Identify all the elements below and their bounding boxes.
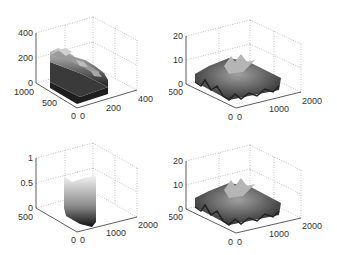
- z-tick-labels: 1 0.5 0: [20, 153, 33, 213]
- svg-text:0: 0: [80, 235, 85, 245]
- svg-text:2000: 2000: [302, 221, 322, 231]
- svg-text:20: 20: [173, 31, 183, 41]
- svg-text:0.5: 0.5: [20, 178, 33, 188]
- svg-text:400: 400: [138, 94, 153, 104]
- y-tick-labels: 500 0: [18, 212, 76, 245]
- z-tick-labels: 20 10 0: [173, 156, 183, 214]
- surface: [195, 178, 281, 225]
- svg-text:10: 10: [173, 180, 183, 190]
- z-tick-labels: 20 10 0: [173, 31, 183, 89]
- svg-text:0: 0: [228, 112, 233, 122]
- svg-text:0: 0: [71, 111, 76, 121]
- svg-text:1000: 1000: [14, 87, 34, 97]
- plot-top-right: 20 10 0 500 0 0 1000 2000: [169, 0, 337, 127]
- svg-text:500: 500: [42, 98, 57, 108]
- svg-text:0: 0: [71, 235, 76, 245]
- svg-text:200: 200: [106, 103, 121, 113]
- x-tick-labels: 0 1000 2000: [237, 96, 322, 122]
- svg-text:200: 200: [18, 53, 33, 63]
- svg-text:0: 0: [80, 111, 85, 121]
- svg-text:1000: 1000: [269, 229, 289, 239]
- plot-bottom-right: 20 10 0 500 0 0 1000 2000: [169, 128, 337, 255]
- svg-text:400: 400: [18, 28, 33, 38]
- svg-text:0: 0: [228, 237, 233, 247]
- svg-text:500: 500: [18, 212, 33, 222]
- surface: [64, 175, 96, 227]
- plot-bottom-left: 1 0.5 0 500 0 0 1000 2000: [0, 128, 168, 255]
- x-tick-labels: 0 1000 2000: [237, 221, 322, 247]
- svg-text:0: 0: [237, 237, 242, 247]
- surface-plot-spectrum: 20 10 0 500 0 0 1000 2000: [169, 0, 337, 127]
- plot-top-left: 400 200 0 1000 500 0 0 200 400: [0, 0, 168, 127]
- svg-text:2000: 2000: [138, 220, 158, 230]
- svg-text:1: 1: [28, 153, 33, 163]
- svg-text:500: 500: [169, 87, 183, 97]
- surface-plot-spectrum-2: 20 10 0 500 0 0 1000 2000: [169, 128, 337, 255]
- z-tick-labels: 400 200 0: [18, 28, 33, 88]
- svg-text:1000: 1000: [269, 104, 289, 114]
- svg-text:1000: 1000: [106, 228, 126, 238]
- svg-text:500: 500: [169, 212, 183, 222]
- svg-text:2000: 2000: [302, 96, 322, 106]
- surface-plot-stepped: 400 200 0 1000 500 0 0 200 400: [0, 0, 168, 127]
- surface: [50, 48, 108, 104]
- svg-text:10: 10: [173, 55, 183, 65]
- svg-text:0: 0: [237, 112, 242, 122]
- surface-plot-gradient-block: 1 0.5 0 500 0 0 1000 2000: [0, 128, 168, 255]
- surface: [195, 54, 281, 100]
- svg-text:20: 20: [173, 156, 183, 166]
